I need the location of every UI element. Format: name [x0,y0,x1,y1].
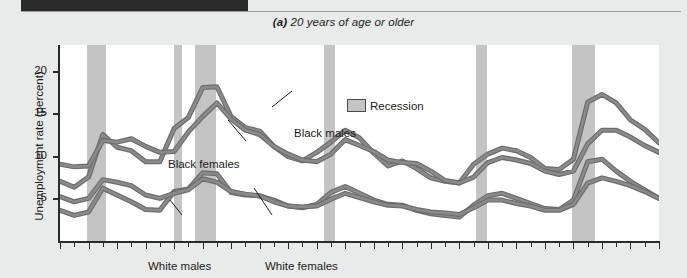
y-axis-tick [53,113,60,115]
x-axis-tick [203,241,204,249]
x-axis-tick [146,241,147,249]
y-axis-tick-label: 15 [7,107,47,119]
x-axis-tick [459,241,460,249]
x-axis-tick [616,241,617,247]
y-axis-tick-label: 20 [7,65,47,77]
chart-plot-area: 1972197419761978198019821984198619881990… [58,45,659,243]
x-axis-tick [260,241,261,249]
page-masthead-bar [21,0,248,11]
page-horizontal-rule [21,11,681,12]
x-axis-tick [374,241,375,249]
series-label-white-females: White females [265,260,338,272]
x-axis-tick [588,241,589,247]
chart-plot-inner [60,45,659,241]
y-axis-tick-label: 10 [7,150,47,162]
x-axis-tick [288,241,289,249]
x-axis-tick [131,241,132,247]
x-axis-tick [345,241,346,249]
x-axis-tick [488,241,489,249]
x-axis-tick [60,241,61,249]
x-axis-tick [188,241,189,247]
x-axis-tick [217,241,218,247]
recession-legend-label: Recession [370,100,424,112]
x-axis-tick [531,241,532,247]
x-axis-tick [502,241,503,247]
series-label-black-females: Black females [168,158,240,170]
x-axis-tick [317,241,318,249]
x-axis-tick [174,241,175,249]
series-label-black-males: Black males [294,127,356,139]
figure-page: (a) 20 years of age or older Unemploymen… [0,0,687,278]
x-axis-tick [302,241,303,247]
figure-title-text: 20 years of age or older [287,16,414,28]
x-axis-tick [659,241,660,249]
x-axis-tick [417,241,418,247]
x-axis-tick [160,241,161,247]
x-axis-tick [431,241,432,249]
x-axis-tick [445,241,446,247]
y-axis-tick [53,198,60,200]
x-axis-tick [545,241,546,249]
y-axis-tick [53,156,60,158]
figure-title: (a) 20 years of age or older [0,16,687,28]
x-axis-tick [516,241,517,249]
x-axis-tick [231,241,232,249]
x-axis-tick [117,241,118,249]
x-axis-tick [274,241,275,247]
x-axis-tick [388,241,389,247]
x-axis-tick [103,241,104,247]
x-axis-tick [630,241,631,249]
x-axis-tick [245,241,246,247]
x-axis-tick [573,241,574,249]
x-axis-tick [331,241,332,247]
x-axis-tick [402,241,403,249]
x-axis-tick [645,241,646,247]
series-label-white-males: White males [148,260,211,272]
y-axis-tick [53,71,60,73]
figure-title-lead: (a) [273,16,287,28]
y-axis-tick-label: 5 [7,192,47,204]
legend: Recession [347,99,424,112]
recession-legend-swatch [347,99,366,112]
x-axis-tick [360,241,361,247]
x-axis-tick [602,241,603,249]
series-lines-group [60,45,659,241]
x-axis-tick [559,241,560,247]
x-axis-tick [474,241,475,247]
x-axis-tick [74,241,75,247]
x-axis-tick [89,241,90,249]
